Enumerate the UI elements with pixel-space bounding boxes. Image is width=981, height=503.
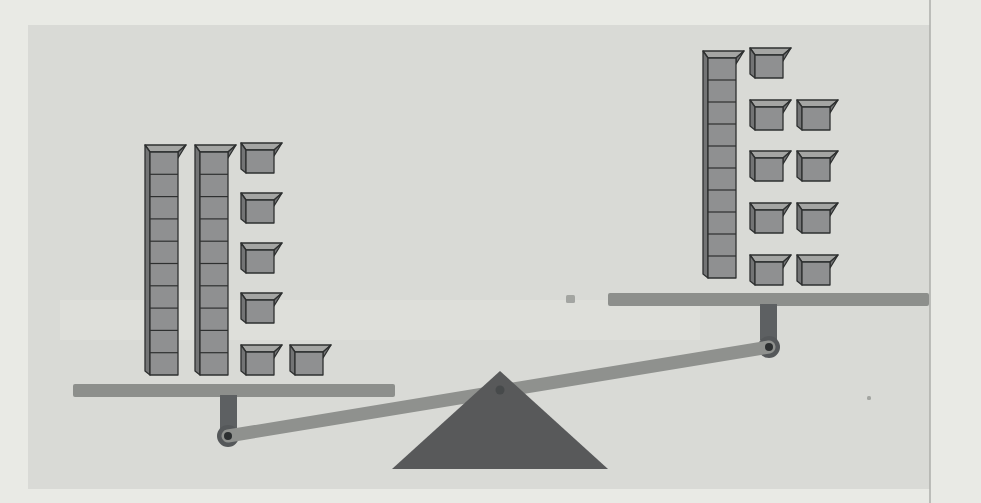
scan-speck [566, 295, 575, 303]
cube-side-face [703, 51, 708, 278]
right-pivot-dot [765, 343, 773, 351]
cube-front-face [246, 200, 274, 223]
left-hanger-post [220, 395, 237, 429]
cube-front-face [802, 262, 830, 285]
cube-front-face [802, 107, 830, 130]
worksheet-scan [0, 0, 981, 503]
cube-front-face [755, 210, 783, 233]
balance-scale-illustration [0, 0, 981, 503]
cube-front-face [802, 210, 830, 233]
cube-front-face [246, 150, 274, 173]
scan-speck [867, 396, 871, 400]
cube-side-face [145, 145, 150, 375]
fulcrum-pivot-dot [496, 386, 505, 395]
cube-front-face [295, 352, 323, 375]
cube-front-face [755, 55, 783, 78]
cube-front-face [755, 158, 783, 181]
cube-front-face [755, 107, 783, 130]
cube-front-face [755, 262, 783, 285]
right-hanger-post [760, 304, 777, 340]
left-pivot-dot [224, 432, 232, 440]
cube-side-face [195, 145, 200, 375]
cube-front-face [246, 352, 274, 375]
cube-front-face [246, 250, 274, 273]
cube-front-face [802, 158, 830, 181]
cube-front-face [246, 300, 274, 323]
